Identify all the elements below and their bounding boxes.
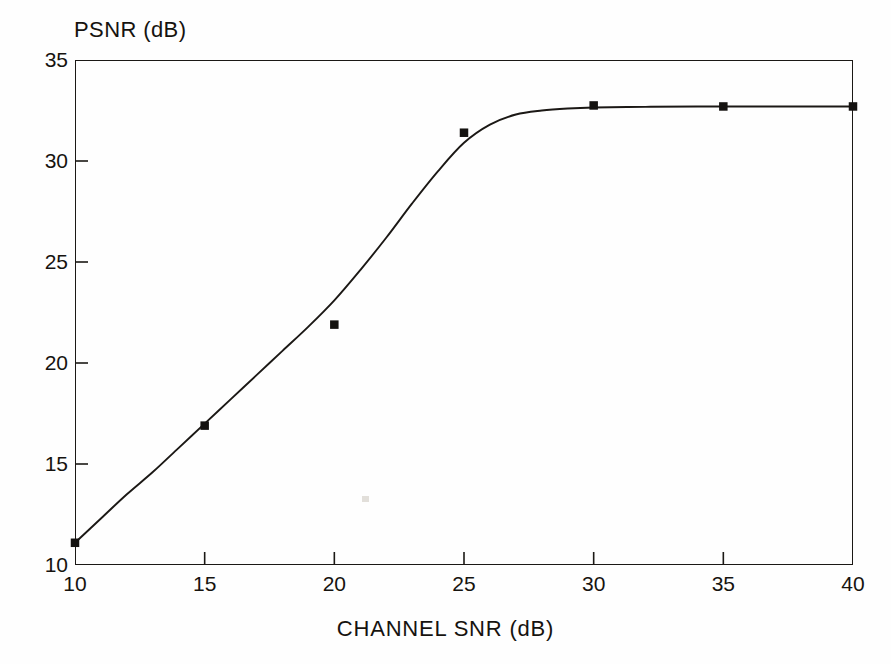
x-tick-label: 25 — [452, 572, 475, 596]
y-axis-title: PSNR (dB) — [74, 17, 186, 43]
fitted-curve — [75, 106, 853, 542]
y-tick-label: 20 — [45, 351, 68, 375]
y-tick-label: 30 — [45, 149, 68, 173]
x-tick-label: 20 — [323, 572, 346, 596]
y-tick-label: 35 — [45, 48, 68, 72]
x-axis-tick-labels: 10152025303540 — [75, 572, 853, 606]
data-point-marker — [719, 102, 728, 111]
scan-artifact — [362, 496, 369, 502]
plot-area — [75, 60, 853, 565]
data-point-marker — [71, 539, 80, 548]
data-point-marker — [589, 101, 598, 110]
y-axis-tick-labels: 101520253035 — [26, 60, 68, 565]
x-tick-label: 15 — [193, 572, 216, 596]
figure-canvas: PSNR (dB) 101520253035 10152025303540 CH… — [0, 0, 891, 664]
x-axis-title: CHANNEL SNR (dB) — [0, 616, 891, 642]
data-point-marker — [330, 320, 339, 329]
y-tick-label: 15 — [45, 452, 68, 476]
x-tick-label: 10 — [63, 572, 86, 596]
data-point-marker — [460, 128, 469, 137]
data-point-marker — [200, 421, 209, 430]
data-point-marker — [849, 102, 858, 111]
x-tick-label: 35 — [712, 572, 735, 596]
x-tick-label: 30 — [582, 572, 605, 596]
plot-graphics — [75, 60, 853, 565]
x-tick-label: 40 — [841, 572, 864, 596]
y-tick-label: 25 — [45, 250, 68, 274]
